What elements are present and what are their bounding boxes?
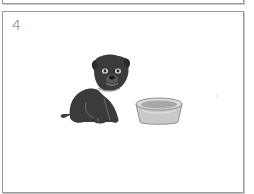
puppy-icon <box>61 55 130 124</box>
puppy-with-bowl-illustration <box>58 52 198 127</box>
previous-panel <box>2 0 244 4</box>
panel-number: 4 <box>12 17 21 33</box>
food-bowl-icon <box>136 98 182 124</box>
decorative-speck <box>215 95 219 97</box>
